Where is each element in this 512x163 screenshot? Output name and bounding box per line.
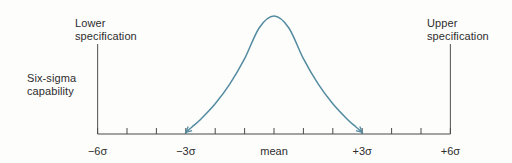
six-sigma-capability-line1: Six-sigma: [27, 72, 76, 85]
axis-label-3sigma: +3σ: [353, 145, 372, 157]
axis-label--3sigma: −3σ: [176, 145, 195, 157]
axis-label--6sigma: −6σ: [88, 145, 107, 157]
axis-label-mean: mean: [260, 145, 288, 157]
six-sigma-capability-label: Six-sigma capability: [27, 72, 76, 98]
six-sigma-capability-line2: capability: [27, 85, 76, 98]
lower-spec-label: Lower specification: [75, 17, 137, 43]
upper-spec-label-line1: Upper: [427, 17, 489, 30]
upper-spec-label-line2: specification: [427, 30, 489, 43]
six-sigma-capability-figure: Lower specification Upper specification …: [0, 0, 512, 163]
normal-curve: [186, 16, 362, 132]
upper-spec-label: Upper specification: [427, 17, 489, 43]
axis-label-6sigma: +6σ: [441, 145, 460, 157]
lower-spec-label-line2: specification: [75, 30, 137, 43]
lower-spec-label-line1: Lower: [75, 17, 137, 30]
